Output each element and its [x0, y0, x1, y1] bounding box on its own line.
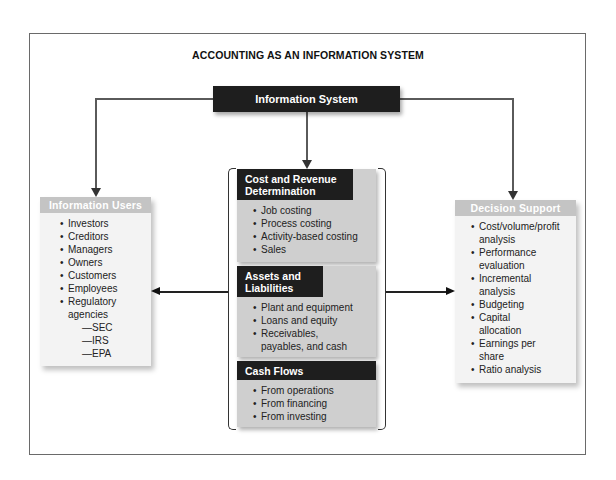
decision-support-header: Decision Support [455, 200, 576, 216]
list-item: Loans and equity [253, 314, 370, 327]
list-item: Sales [253, 243, 376, 256]
arrow-left-icon [151, 287, 160, 295]
list-item: From financing [253, 397, 376, 410]
list-item: Regulatory agencies [60, 295, 128, 321]
left-brace [228, 168, 236, 430]
list-item: Activity-based costing [253, 230, 376, 243]
panel-header: Cash Flows [237, 361, 376, 380]
panel-cost-revenue: Cost and Revenue Determination Job costi… [237, 169, 376, 262]
list-item: Receivables, payables, and cash [253, 327, 356, 353]
list-item: Creditors [60, 230, 151, 243]
list-item: From operations [253, 384, 376, 397]
list-item: Earnings per share [471, 337, 554, 363]
list-item: Cost/volume/profit analysis [471, 220, 572, 246]
list-item: Ratio analysis [471, 363, 572, 376]
connector-left-vertical [95, 98, 97, 190]
right-brace [378, 168, 386, 430]
panel-cash-flows: Cash Flows From operations From financin… [237, 361, 376, 427]
information-users-header: Information Users [40, 197, 151, 213]
panel-header: Assets and Liabilities [237, 266, 323, 297]
panel-list: Job costing Process costing Activity-bas… [237, 200, 376, 260]
information-system-label: Information System [255, 93, 358, 105]
list-item: Employees [60, 282, 151, 295]
list-item: Process costing [253, 217, 376, 230]
decision-support-list: Cost/volume/profit analysis Performance … [455, 216, 576, 380]
sub-list-item: —SEC [60, 321, 151, 334]
list-item: Incremental analysis [471, 272, 541, 298]
connector-to-users [158, 291, 228, 293]
decision-support-box: Decision Support Cost/volume/profit anal… [455, 200, 576, 383]
connector-right-horizontal [400, 98, 513, 100]
panel-list: From operations From financing From inve… [237, 380, 376, 427]
panel-assets-liabilities: Assets and Liabilities Plant and equipme… [237, 266, 376, 357]
list-item: Capital allocation [471, 311, 534, 337]
arrow-down-icon [302, 160, 312, 169]
information-users-box: Information Users Investors Creditors Ma… [40, 197, 151, 366]
information-users-list: Investors Creditors Managers Owners Cust… [40, 213, 151, 364]
list-item: Owners [60, 256, 151, 269]
list-item: Budgeting [471, 298, 572, 311]
connector-right-vertical [512, 98, 514, 192]
connector-left-horizontal [95, 98, 213, 100]
list-item: Customers [60, 269, 151, 282]
list-item: Investors [60, 217, 151, 230]
arrow-down-icon [91, 188, 101, 197]
list-item: From investing [253, 410, 376, 423]
panel-list: Plant and equipment Loans and equity Rec… [237, 297, 376, 357]
connector-center-vertical [306, 112, 308, 161]
list-item: Managers [60, 243, 151, 256]
panel-header: Cost and Revenue Determination [237, 169, 353, 200]
diagram-title: ACCOUNTING AS AN INFORMATION SYSTEM [0, 49, 616, 61]
information-system-box: Information System [213, 86, 400, 112]
list-item: Plant and equipment [253, 301, 370, 314]
list-item: Job costing [253, 204, 376, 217]
arrow-right-icon [446, 287, 455, 295]
arrow-down-icon [508, 191, 518, 200]
connector-to-decision [386, 291, 448, 293]
list-item: Performance evaluation [471, 246, 549, 272]
sub-list-item: —EPA [60, 347, 151, 360]
sub-list-item: —IRS [60, 334, 151, 347]
